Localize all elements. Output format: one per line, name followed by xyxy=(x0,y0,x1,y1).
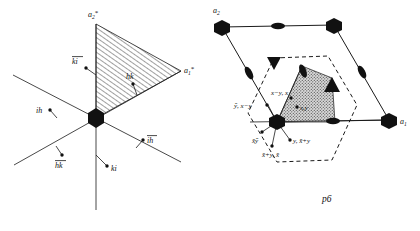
general-position-dot-xmy-x xyxy=(289,96,292,99)
figure-svg: a2* a1* ki hk ih ih hk k xyxy=(0,0,420,231)
six-fold-icon-corner-top-right xyxy=(326,18,342,34)
coord-label-xmy-x: x−y, x xyxy=(270,89,289,97)
tick-stem-ki xyxy=(96,155,107,166)
three-fold-icon-down xyxy=(267,57,281,70)
coord-label-xbar-ybar: x̄ȳ xyxy=(251,137,259,145)
coord-label-ybar-xmy: ȳ, x−y xyxy=(233,102,252,110)
label-ih: ih xyxy=(36,106,42,115)
node-ihbar xyxy=(141,138,144,141)
label-ki: ki xyxy=(111,164,117,173)
right-panel-group: a2 a1 x−y, x ȳ, x−y x,y x̄ȳ y, x̄+y x̄… xyxy=(213,6,407,204)
label-ihbar: ih xyxy=(147,136,157,145)
left-panel-group: a2* a1* ki hk ih ih hk k xyxy=(13,9,195,210)
label-kibar: ki xyxy=(72,57,83,66)
node-ki xyxy=(105,164,108,167)
svg-text:a2: a2 xyxy=(213,6,220,16)
general-position-dot-xbarybar xyxy=(260,130,263,133)
svg-text:a1: a1 xyxy=(400,117,407,127)
label-a2-star: a2* xyxy=(88,9,99,20)
two-fold-icon-top-edge xyxy=(271,23,285,29)
coord-label-xy: x,y xyxy=(299,104,309,112)
general-position-dot-xy xyxy=(295,105,298,108)
a2-star-asterisk: * xyxy=(95,9,99,17)
hatched-sector xyxy=(96,24,181,118)
six-fold-icon-corner-a1 xyxy=(381,113,397,129)
node-ih xyxy=(48,108,51,111)
two-fold-icon-bottom-edge xyxy=(326,118,340,124)
node-kibar xyxy=(84,66,87,69)
node-hk xyxy=(131,82,134,85)
a2-subscript: 2 xyxy=(217,10,220,16)
node-hkbar xyxy=(60,153,63,156)
a1-star-asterisk: * xyxy=(191,65,195,73)
general-position-dot-xbary-xbar xyxy=(270,144,273,147)
general-position-dot-y-xbary xyxy=(288,138,291,141)
hkbar-text: hk xyxy=(55,161,63,170)
label-hkbar: hk xyxy=(55,161,66,170)
crystallography-figure: a2* a1* ki hk ih ih hk k xyxy=(0,0,420,231)
svg-text:a1*: a1* xyxy=(184,65,195,76)
label-hk: hk xyxy=(126,72,134,81)
label-a1: a1 xyxy=(400,117,407,127)
ihbar-text: ih xyxy=(147,136,153,145)
label-a1-star: a1* xyxy=(184,65,195,76)
general-position-dot-ybar-xmy xyxy=(265,103,268,106)
tick-stem-kibar xyxy=(86,68,96,75)
coord-label-xbary-xbar: x̄+y, x̄ xyxy=(261,151,280,159)
coord-label-y-xbary: y, x̄+y xyxy=(292,137,311,145)
a1-subscript: 1 xyxy=(404,121,407,127)
kibar-text: ki xyxy=(72,57,78,66)
six-fold-icon-corner-a2 xyxy=(214,20,230,36)
two-fold-icon-left-edge xyxy=(243,65,255,80)
label-a2: a2 xyxy=(213,6,220,16)
plane-group-label: p6 xyxy=(321,194,332,204)
svg-text:a2*: a2* xyxy=(88,9,99,20)
